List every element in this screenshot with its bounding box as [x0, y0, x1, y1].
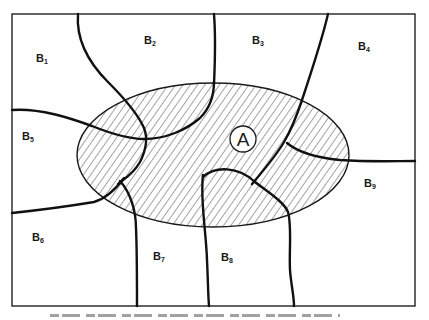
label-b1: B1 — [36, 52, 48, 65]
label-b6: B6 — [32, 231, 44, 244]
label-b9: B9 — [364, 177, 376, 190]
region-a-label-text: A — [237, 129, 250, 150]
label-b3: B3 — [252, 34, 264, 47]
label-b8: B8 — [221, 251, 233, 264]
label-b7: B7 — [153, 250, 165, 263]
caption-text-fragment — [50, 314, 340, 317]
label-b5: B5 — [22, 130, 34, 143]
label-b2: B2 — [144, 34, 156, 47]
region-a-label: A — [230, 126, 256, 152]
label-b4: B4 — [358, 40, 370, 53]
region-diagram: A B1 B2 B3 B4 B5 B6 B7 B8 B9 — [0, 0, 429, 320]
figure-caption-truncated — [50, 312, 340, 320]
boundary-b2-b3 — [214, 14, 215, 84]
